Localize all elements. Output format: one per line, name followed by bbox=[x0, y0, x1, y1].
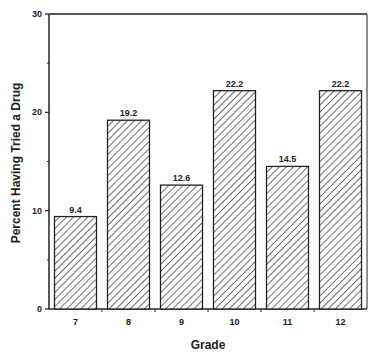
bar-grade-12: 22.2 bbox=[320, 79, 362, 309]
bar-grade-10: 22.2 bbox=[214, 79, 256, 309]
bar-value-label: 12.6 bbox=[173, 173, 191, 183]
bar-grade-9: 12.6 bbox=[161, 173, 203, 309]
x-axis: 789101112 bbox=[73, 309, 346, 327]
x-tick-label: 7 bbox=[73, 317, 78, 327]
x-tick-label: 12 bbox=[335, 317, 345, 327]
x-tick-label: 10 bbox=[229, 317, 239, 327]
y-tick-label: 20 bbox=[32, 107, 42, 117]
x-tick-label: 9 bbox=[179, 317, 184, 327]
bars: 9.419.212.622.214.522.2 bbox=[55, 79, 362, 309]
bar-value-label: 22.2 bbox=[226, 79, 244, 89]
bar-grade-11: 14.5 bbox=[267, 154, 309, 309]
x-tick-label: 8 bbox=[126, 317, 131, 327]
y-tick-label: 0 bbox=[37, 304, 42, 314]
bar-value-label: 14.5 bbox=[279, 154, 297, 164]
bar-value-label: 22.2 bbox=[332, 79, 350, 89]
x-tick-label: 11 bbox=[283, 317, 293, 327]
y-axis: 0102030 bbox=[32, 9, 49, 314]
y-tick-label: 30 bbox=[32, 9, 42, 19]
bar-value-label: 9.4 bbox=[69, 205, 82, 215]
y-axis-title: Percent Having Tried a Drug bbox=[9, 83, 23, 244]
bar-value-label: 19.2 bbox=[120, 108, 138, 118]
y-tick-label: 10 bbox=[32, 206, 42, 216]
x-axis-title: Grade bbox=[191, 338, 226, 352]
bar-grade-8: 19.2 bbox=[108, 108, 150, 309]
bar-chart: 0102030 789101112 9.419.212.622.214.522.… bbox=[0, 0, 375, 358]
bar-grade-7: 9.4 bbox=[55, 205, 97, 309]
